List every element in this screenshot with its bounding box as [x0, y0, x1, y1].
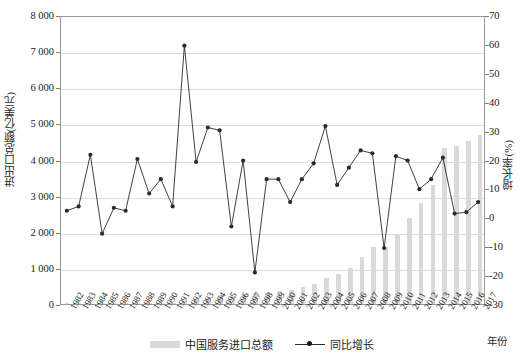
line-marker	[100, 232, 104, 236]
line-marker	[312, 161, 316, 165]
line-marker	[112, 206, 116, 210]
legend-item-bar: 中国服务进口总额	[150, 336, 273, 352]
line-marker	[276, 177, 280, 181]
y-axis-right-tick-label: -20	[489, 271, 519, 281]
line-marker	[171, 204, 175, 208]
y-axis-left-tick-label: 3 000	[6, 192, 54, 202]
y-axis-right-tick-label: 40	[489, 98, 519, 108]
y-axis-right-tick-mark	[485, 189, 489, 190]
y-axis-left-title: 进出口总额(亿美元)	[2, 92, 18, 187]
line-marker	[406, 158, 410, 162]
y-axis-left-tick-mark	[56, 88, 60, 89]
line-marker	[382, 246, 386, 250]
y-axis-right-tick-label: 50	[489, 69, 519, 79]
y-axis-left-tick-mark	[56, 269, 60, 270]
line-marker	[135, 157, 139, 161]
line-marker	[359, 148, 363, 152]
y-axis-right-tick-mark	[485, 247, 489, 248]
line-marker	[265, 177, 269, 181]
y-axis-left-tick-mark	[56, 52, 60, 53]
line-marker	[253, 270, 257, 274]
y-axis-right-tick-label: 70	[489, 11, 519, 21]
line-marker	[206, 125, 210, 129]
plot-area	[60, 16, 485, 305]
y-axis-left-tick-mark	[56, 16, 60, 17]
line-swatch-icon	[295, 340, 325, 349]
y-axis-left-tick-label: 0	[6, 300, 54, 310]
y-axis-left-tick-label: 8 000	[6, 11, 54, 21]
line-marker	[77, 204, 81, 208]
line-marker	[194, 160, 198, 164]
line-marker	[441, 156, 445, 160]
y-axis-right-tick-mark	[485, 103, 489, 104]
y-axis-right-tick-label: 10	[489, 184, 519, 194]
line-marker	[124, 209, 128, 213]
line-marker	[464, 210, 468, 214]
y-axis-right-tick-label: -10	[489, 242, 519, 252]
y-axis-left-tick-label: 7 000	[6, 47, 54, 57]
line-marker	[159, 177, 163, 181]
y-axis-left-tick-label: 2 000	[6, 228, 54, 238]
line-marker	[453, 212, 457, 216]
y-axis-left-tick-label: 6 000	[6, 83, 54, 93]
line-marker	[429, 177, 433, 181]
legend-label-bar: 中国服务进口总额	[185, 336, 273, 352]
y-axis-right-tick-mark	[485, 161, 489, 162]
y-axis-right-tick-mark	[485, 218, 489, 219]
line-marker	[229, 224, 233, 228]
line-marker	[65, 209, 69, 213]
bar-swatch-icon	[150, 341, 180, 348]
line-marker	[323, 124, 327, 128]
line-marker	[88, 153, 92, 157]
y-axis-left-tick-label: 5 000	[6, 119, 54, 129]
line-marker	[300, 177, 304, 181]
y-axis-left-tick-label: 1 000	[6, 264, 54, 274]
y-axis-right-tick-label: 0	[489, 213, 519, 223]
y-axis-right-tick-mark	[485, 132, 489, 133]
line-marker	[182, 44, 186, 48]
chart-legend: 中国服务进口总额 同比增长	[0, 334, 524, 354]
line-marker	[288, 200, 292, 204]
line-path	[67, 46, 478, 273]
y-axis-right-tick-label: 60	[489, 40, 519, 50]
y-axis-right-tick-mark	[485, 74, 489, 75]
y-axis-left-tick-mark	[56, 233, 60, 234]
y-axis-left-tick-label: 4 000	[6, 156, 54, 166]
line-marker	[147, 191, 151, 195]
line-marker	[335, 183, 339, 187]
line-marker	[417, 187, 421, 191]
y-axis-right-tick-label: 20	[489, 156, 519, 166]
y-axis-right-tick-mark	[485, 276, 489, 277]
line-series-layer	[61, 17, 484, 304]
line-marker	[476, 200, 480, 204]
y-axis-right-tick-label: 30	[489, 127, 519, 137]
line-marker	[394, 154, 398, 158]
line-marker	[241, 158, 245, 162]
line-marker	[370, 151, 374, 155]
y-axis-right-tick-mark	[485, 16, 489, 17]
y-axis-right-tick-mark	[485, 45, 489, 46]
y-axis-left-tick-mark	[56, 197, 60, 198]
y-axis-left-tick-mark	[56, 161, 60, 162]
line-marker	[218, 128, 222, 132]
legend-label-line: 同比增长	[330, 336, 374, 352]
line-marker	[347, 166, 351, 170]
chart-container: 进出口总额(亿美元) 增长率(%) 年份 8 0007 0006 0005 00…	[0, 0, 524, 358]
y-axis-left-tick-mark	[56, 124, 60, 125]
legend-item-line: 同比增长	[295, 336, 374, 352]
